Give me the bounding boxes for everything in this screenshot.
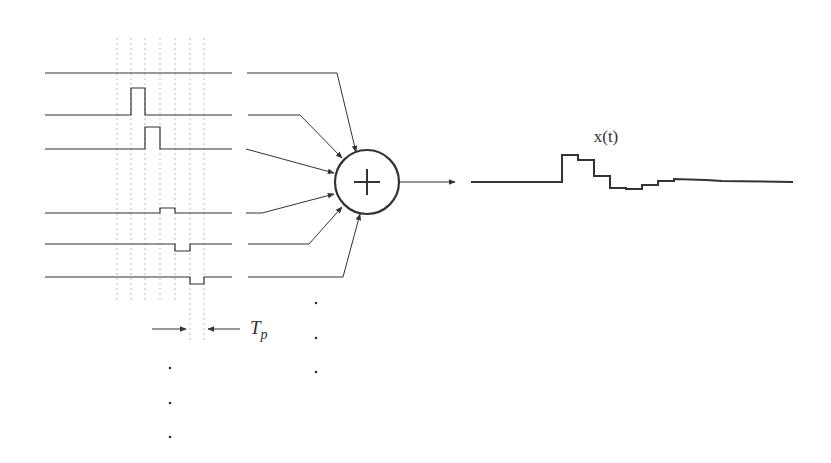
pulse-summation-diagram: x(t) Tp	[0, 0, 831, 463]
input-arrow	[247, 73, 356, 152]
input-arrow	[248, 115, 342, 158]
summing-junction	[335, 150, 399, 214]
input-arrow	[248, 214, 360, 277]
period-label: Tp	[250, 317, 268, 342]
output-label: x(t)	[594, 127, 619, 146]
ellipsis-dot	[169, 402, 172, 405]
input-pulse-row	[45, 277, 232, 284]
ellipsis-dot	[315, 337, 318, 340]
ellipsis-dot	[169, 367, 172, 370]
period-label-sub: p	[260, 327, 268, 342]
time-slot-grid	[117, 38, 204, 342]
ellipsis-dot	[315, 371, 318, 374]
input-arrow	[246, 194, 334, 213]
ellipsis-dots	[169, 302, 318, 439]
input-arrow	[246, 149, 334, 173]
output-waveform	[471, 155, 793, 189]
period-annotation: Tp	[152, 317, 268, 342]
input-pulse-row	[45, 88, 232, 115]
ellipsis-dot	[169, 436, 172, 439]
ellipsis-dot	[315, 302, 318, 305]
